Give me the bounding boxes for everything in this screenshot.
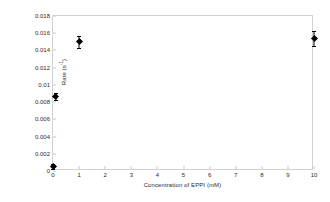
marker-diamond — [310, 35, 317, 42]
y-axis-title: Rate (s-1) — [59, 32, 67, 112]
y-tick-label: 0 — [47, 168, 50, 174]
y-axis-title-base: Rate (s — [61, 65, 67, 85]
x-tick-mark — [79, 166, 80, 169]
error-bar-cap-top — [312, 31, 316, 32]
y-tick-label: 0.012 — [35, 65, 50, 71]
y-tick-mark — [53, 33, 56, 34]
x-tick-mark — [183, 166, 184, 169]
y-axis-title-tail: ) — [61, 59, 67, 61]
y-axis-title-exponent: -1 — [59, 61, 64, 65]
y-tick-label: 0.016 — [35, 30, 50, 36]
y-tick-mark — [53, 119, 56, 120]
y-tick-mark — [53, 136, 56, 137]
y-tick-label: 0.018 — [35, 13, 50, 19]
y-tick-label: 0.014 — [35, 47, 50, 53]
x-tick-label: 9 — [286, 172, 289, 178]
y-tick-label: 0.002 — [35, 151, 50, 157]
y-tick-mark — [53, 102, 56, 103]
x-tick-label: 4 — [156, 172, 159, 178]
x-tick-mark — [287, 166, 288, 169]
x-tick-label: 6 — [208, 172, 211, 178]
x-axis-title: Concentration of EPPI (mM) — [53, 182, 312, 188]
y-tick-label: 0.01 — [38, 82, 50, 88]
x-tick-label: 5 — [182, 172, 185, 178]
error-bar-cap-bottom — [77, 48, 81, 49]
chart-figure: Rate (s-1) Concentration of EPPI (mM) 00… — [0, 0, 330, 202]
error-bar-cap-bottom — [312, 46, 316, 47]
x-tick-mark — [209, 166, 210, 169]
x-tick-mark — [157, 166, 158, 169]
marker-diamond — [76, 38, 83, 45]
y-tick-mark — [53, 50, 56, 51]
y-tick-label: 0.006 — [35, 116, 50, 122]
y-tick-mark — [53, 16, 56, 17]
y-tick-mark — [53, 84, 56, 85]
y-tick-label: 0.004 — [35, 134, 50, 140]
x-tick-label: 7 — [234, 172, 237, 178]
x-tick-label: 8 — [260, 172, 263, 178]
y-tick-mark — [53, 153, 56, 154]
x-tick-mark — [314, 166, 315, 169]
x-tick-mark — [235, 166, 236, 169]
x-tick-label: 1 — [77, 172, 80, 178]
x-tick-mark — [105, 166, 106, 169]
x-tick-label: 0 — [51, 172, 54, 178]
x-tick-label: 10 — [311, 172, 318, 178]
y-tick-label: 0.008 — [35, 99, 50, 105]
plot-area: Rate (s-1) Concentration of EPPI (mM) 00… — [52, 15, 313, 170]
x-tick-mark — [261, 166, 262, 169]
x-tick-label: 3 — [130, 172, 133, 178]
y-tick-mark — [53, 67, 56, 68]
x-tick-label: 2 — [104, 172, 107, 178]
x-tick-mark — [131, 166, 132, 169]
